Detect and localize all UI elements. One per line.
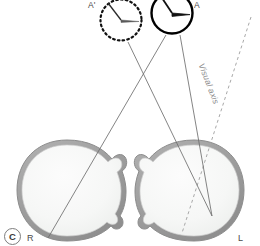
label-stimulus-perceived: A' [88, 1, 95, 10]
figure-panel-c: A' A R L Visual axis C [0, 0, 260, 246]
panel-letter-badge: C [4, 228, 21, 245]
label-right-eye: R [27, 234, 34, 243]
label-stimulus-real: A [194, 1, 200, 10]
diagram-canvas [0, 0, 260, 246]
eye-right [17, 140, 127, 241]
clock-perceived-a-prime [101, 0, 142, 41]
label-left-eye: L [238, 234, 243, 243]
eye-left [134, 140, 244, 241]
clock-real-a [152, 0, 193, 34]
